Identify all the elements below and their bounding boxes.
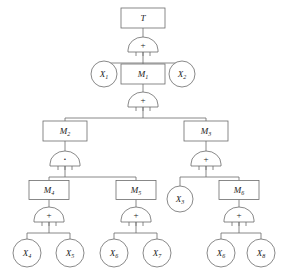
- intermediate-event-node[interactable]: M1: [121, 64, 165, 84]
- gate-or: +: [121, 207, 151, 226]
- intermediate-event-node[interactable]: M2: [43, 121, 87, 141]
- intermediate-event-node[interactable]: M6: [219, 181, 259, 200]
- gate-symbol: +: [46, 210, 51, 220]
- intermediate-event-node[interactable]: M3: [184, 121, 228, 141]
- basic-event-node[interactable]: X5: [56, 239, 84, 267]
- gate-symbol: +: [140, 40, 145, 50]
- basic-event-node[interactable]: X4: [13, 239, 41, 267]
- gate-or: +: [128, 92, 158, 111]
- fault-tree-canvas: ++·++++ TX1M1X2M2M3M4M5X3M6X4X5X6X7X6X8: [0, 0, 285, 279]
- gate-and: ·: [50, 151, 80, 170]
- gate-symbol: +: [236, 210, 241, 220]
- gate-or: +: [34, 207, 64, 226]
- intermediate-event-node[interactable]: M5: [116, 181, 156, 200]
- gate-symbol: +: [133, 210, 138, 220]
- basic-event-node[interactable]: X1: [91, 61, 117, 87]
- intermediate-event-node[interactable]: T: [121, 8, 165, 28]
- basic-event-node[interactable]: X2: [169, 61, 195, 87]
- gate-or: +: [191, 151, 221, 170]
- gate-symbol: ·: [63, 151, 67, 166]
- gate-symbol: +: [140, 95, 145, 105]
- gate-or: +: [224, 207, 254, 226]
- gate-symbol: +: [203, 154, 208, 164]
- intermediate-event-node[interactable]: M4: [29, 181, 69, 200]
- basic-event-node[interactable]: X6: [100, 239, 128, 267]
- basic-event-node[interactable]: X7: [143, 239, 171, 267]
- basic-event-node[interactable]: X8: [247, 239, 275, 267]
- fault-tree-diagram: ++·++++ TX1M1X2M2M3M4M5X3M6X4X5X6X7X6X8: [0, 0, 285, 279]
- gate-or: +: [128, 37, 158, 56]
- basic-event-node[interactable]: X3: [167, 186, 193, 212]
- basic-event-node[interactable]: X6: [207, 239, 235, 267]
